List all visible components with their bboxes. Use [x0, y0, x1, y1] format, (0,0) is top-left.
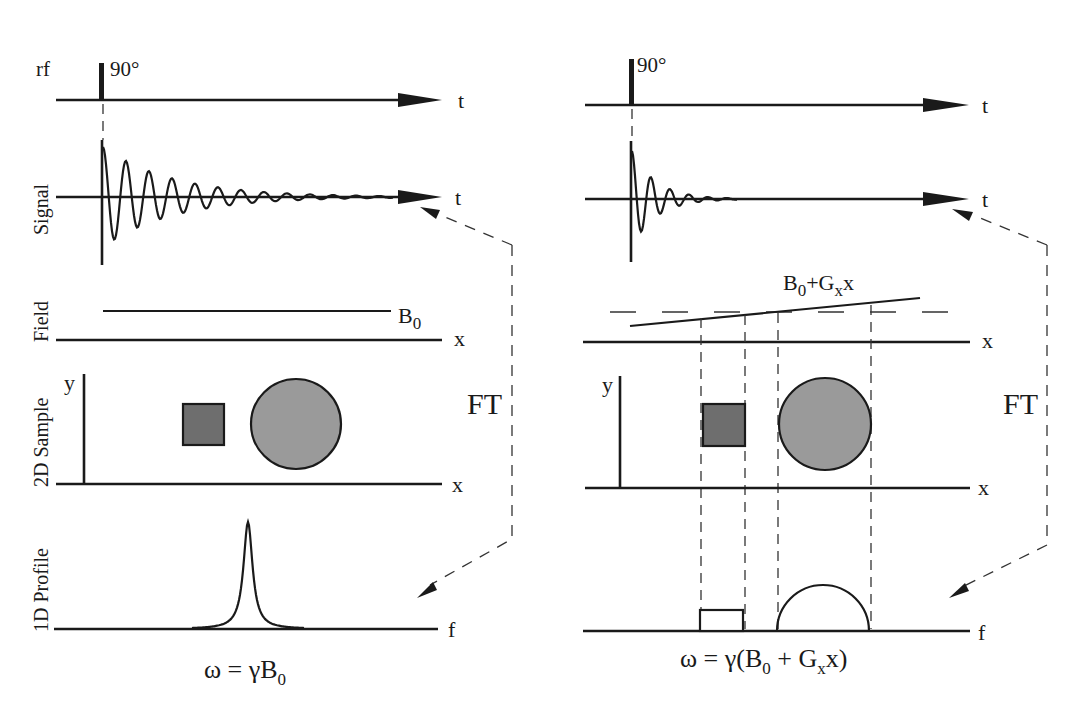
- sample-x-label-right: x: [978, 475, 989, 500]
- arrowhead-icon: [398, 190, 442, 204]
- sample-y-label-right: y: [602, 372, 613, 397]
- row-label-rf: rf: [36, 57, 50, 81]
- ft-dashed-path-top: [440, 215, 512, 245]
- row-label-signal: Signal: [30, 183, 53, 235]
- field-b0-label: B0: [398, 303, 421, 333]
- signal-axis: t: [56, 140, 461, 265]
- rf-axis-label: t: [458, 88, 464, 113]
- signal-axis-label-right: t: [982, 187, 988, 212]
- right-panel: t 90° t B0+Gxx x y x FT: [583, 53, 1047, 678]
- fid-signal-long: [103, 147, 393, 239]
- field-axis-label: x: [454, 326, 465, 351]
- left-panel: rf Signal Field 2D Sample 1D Profile t 9…: [30, 57, 512, 689]
- signal-axis-label: t: [455, 185, 461, 210]
- ft-label-right: FT: [1003, 387, 1038, 420]
- pulse-label: 90°: [110, 57, 139, 81]
- sample-square: [183, 404, 224, 445]
- profile-semicircle: [777, 585, 869, 631]
- equation-right: ω = γ(B0 + Gxx): [680, 644, 847, 678]
- ft-arrowhead-down-icon: [417, 582, 437, 598]
- sample-square-right: [703, 404, 745, 446]
- field-axis-label-right: x: [982, 328, 993, 353]
- mri-frequency-encoding-diagram: rf Signal Field 2D Sample 1D Profile t 9…: [0, 0, 1072, 721]
- field-gradient-label: B0+Gxx: [783, 270, 854, 300]
- ft-label: FT: [467, 387, 502, 420]
- profile-axis-label: f: [448, 617, 456, 642]
- profile-rectangle: [700, 610, 743, 631]
- profile-axis-label-right: f: [978, 620, 986, 645]
- row-label-2d-sample: 2D Sample: [30, 397, 53, 487]
- ft-arrowhead-up-icon: [952, 209, 973, 221]
- pulse-label-right: 90°: [637, 53, 666, 77]
- sample-circle: [251, 379, 341, 469]
- rf-pulse-right: [629, 59, 634, 105]
- equation-left: ω = γB0: [204, 655, 286, 689]
- profile-lorentzian-peak: [192, 522, 304, 628]
- arrowhead-icon: [398, 93, 442, 107]
- arrowhead-icon: [923, 98, 969, 112]
- fid-signal-short: [632, 151, 737, 232]
- arrowhead-icon: [923, 192, 969, 206]
- sample-y-label: y: [64, 370, 75, 395]
- rf-axis: t: [56, 88, 464, 113]
- row-label-field: Field: [30, 301, 52, 342]
- row-label-1d-profile: 1D Profile: [30, 548, 52, 632]
- ft-arrowhead-up-icon: [420, 207, 440, 219]
- ft-dashed-path-top-right: [975, 216, 1047, 245]
- rf-pulse: [99, 63, 104, 100]
- projection-guide-lines: [701, 305, 871, 629]
- ft-arrowhead-down-icon: [949, 583, 969, 598]
- sample-x-label: x: [452, 472, 463, 497]
- rf-axis-label-right: t: [982, 93, 988, 118]
- sample-circle-right: [779, 378, 871, 470]
